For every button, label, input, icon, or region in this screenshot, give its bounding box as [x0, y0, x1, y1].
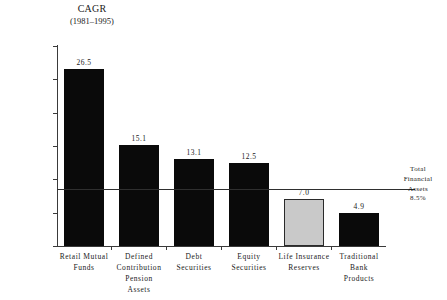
- bar-value-label: 26.5: [56, 58, 112, 67]
- y-axis-line: [57, 45, 58, 247]
- category-line: Traditional: [322, 252, 396, 263]
- x-tick-mark: [276, 246, 277, 250]
- bar-value-label: 15.1: [111, 134, 167, 143]
- bar-slot: 12.5: [229, 163, 269, 246]
- y-tick-mark: [53, 113, 57, 114]
- category-line: Products: [322, 274, 396, 285]
- y-tick-mark: [53, 246, 57, 247]
- bar-retail-mutual-funds[interactable]: [64, 69, 104, 246]
- bar-value-label: 4.9: [331, 202, 387, 211]
- y-tick-mark: [53, 179, 57, 180]
- reference-annotation-line-1: Total: [392, 165, 444, 175]
- category-line: Bank: [322, 263, 396, 274]
- reference-annotation-line-3: Assets: [392, 185, 444, 195]
- bar-defined-contribution-pension-assets[interactable]: [119, 145, 159, 246]
- reference-line-annotation: Total Financial Assets 8.5%: [392, 165, 444, 204]
- reference-annotation-line-2: Financial: [392, 175, 444, 185]
- bar-slot: 26.5: [64, 69, 104, 246]
- bar-value-label: 12.5: [221, 152, 277, 161]
- bar-slot: 13.1: [174, 159, 214, 246]
- x-tick-mark: [331, 246, 332, 250]
- bar-value-label: 13.1: [166, 148, 222, 157]
- bar-slot: 4.9: [339, 213, 379, 246]
- x-tick-mark: [111, 246, 112, 250]
- y-tick-mark: [53, 213, 57, 214]
- chart-plot-area: 0% 5% 10% 15% 20% 25% 30% 26.5 15.1: [0, 0, 447, 300]
- x-tick-mark: [221, 246, 222, 250]
- y-tick-mark: [53, 146, 57, 147]
- category-line: Pension: [102, 274, 176, 285]
- bar-slot: 15.1: [119, 145, 159, 246]
- y-tick-mark: [53, 79, 57, 80]
- bar-traditional-bank-products[interactable]: [339, 213, 379, 246]
- bar-slot: 7.0: [284, 199, 324, 246]
- category-line: Assets: [102, 285, 176, 296]
- category-label-traditional-bank-products: Traditional Bank Products: [322, 252, 396, 285]
- bar-debt-securities[interactable]: [174, 159, 214, 246]
- bar-life-insurance-reserves[interactable]: [284, 199, 324, 246]
- y-tick-mark: [53, 46, 57, 47]
- x-tick-mark: [166, 246, 167, 250]
- reference-line-total-financial-assets: [57, 189, 386, 190]
- bar-equity-securities[interactable]: [229, 163, 269, 246]
- reference-annotation-value: 8.5%: [392, 194, 444, 204]
